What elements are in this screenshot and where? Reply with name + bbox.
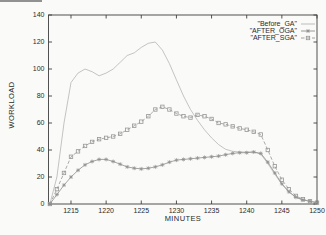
series-line — [50, 107, 317, 204]
asterisk-marker — [210, 155, 214, 159]
workload-line-chart: 0204060801001201401215122012251230123512… — [0, 0, 326, 235]
asterisk-marker — [273, 171, 277, 175]
x-tick-label: 1245 — [274, 207, 290, 214]
y-tick-label: 20 — [37, 173, 45, 180]
asterisk-marker — [97, 157, 101, 161]
asterisk-marker — [174, 158, 178, 162]
x-tick-label: 1215 — [63, 207, 79, 214]
y-axis-title: WORKLOAD — [7, 65, 17, 145]
square-marker — [266, 148, 269, 151]
asterisk-marker — [181, 157, 185, 161]
asterisk-marker — [306, 29, 310, 33]
asterisk-marker — [188, 157, 192, 161]
asterisk-marker — [160, 163, 164, 167]
asterisk-marker — [259, 151, 263, 155]
asterisk-marker — [132, 166, 136, 170]
asterisk-marker — [90, 159, 94, 163]
asterisk-marker — [252, 150, 256, 154]
y-tick-label: 100 — [33, 65, 45, 72]
asterisk-marker — [139, 167, 143, 171]
x-tick-label: 1250 — [309, 207, 325, 214]
asterisk-marker — [125, 165, 129, 169]
asterisk-marker — [69, 175, 73, 179]
asterisk-marker — [118, 162, 122, 166]
square-marker — [280, 178, 283, 181]
asterisk-marker — [203, 155, 207, 159]
legend-label: "AFTER_SGA" — [250, 34, 297, 42]
y-tick-label: 80 — [37, 92, 45, 99]
y-tick-label: 120 — [33, 38, 45, 45]
series-afteroga — [48, 150, 319, 206]
plot-area: 0204060801001201401215122012251230123512… — [0, 0, 326, 235]
asterisk-marker — [266, 160, 270, 164]
square-marker — [55, 187, 58, 190]
square-marker — [217, 121, 220, 124]
series-line — [50, 42, 317, 204]
asterisk-marker — [280, 182, 284, 186]
square-marker — [126, 128, 129, 131]
asterisk-marker — [231, 151, 235, 155]
x-tick-label: 1235 — [204, 207, 220, 214]
y-tick-label: 40 — [37, 146, 45, 153]
asterisk-marker — [76, 168, 80, 172]
y-tick-label: 0 — [41, 200, 45, 207]
square-marker — [273, 165, 276, 168]
x-tick-label: 1230 — [169, 207, 185, 214]
x-tick-label: 1220 — [98, 207, 114, 214]
asterisk-marker — [167, 160, 171, 164]
asterisk-marker — [83, 163, 87, 167]
asterisk-marker — [153, 165, 157, 169]
asterisk-marker — [224, 153, 228, 157]
x-axis-title: MINUTES — [143, 214, 223, 224]
x-tick-label: 1225 — [133, 207, 149, 214]
y-tick-label: 60 — [37, 119, 45, 126]
asterisk-marker — [104, 157, 108, 161]
asterisk-marker — [55, 193, 59, 197]
x-tick-label: 1240 — [239, 207, 255, 214]
series-aftersga — [48, 105, 318, 206]
y-tick-label: 140 — [33, 11, 45, 18]
square-marker — [168, 108, 171, 111]
series-beforega — [50, 42, 317, 204]
asterisk-marker — [111, 159, 115, 163]
asterisk-marker — [245, 151, 249, 155]
asterisk-marker — [62, 183, 66, 187]
asterisk-marker — [217, 154, 221, 158]
asterisk-marker — [238, 151, 242, 155]
asterisk-marker — [196, 156, 200, 160]
legend: "Before_GA""AFTER_OGA""AFTER_SGA" — [250, 20, 315, 42]
asterisk-marker — [146, 166, 150, 170]
